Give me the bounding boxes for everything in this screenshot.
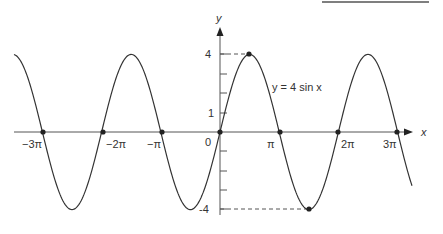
x-axis-label: x xyxy=(420,126,427,138)
x-tick-pi: π xyxy=(267,138,275,150)
sine-graph: y x 4 1 -4 0 −3π −2π −π π 2π 3π y = 4 si… xyxy=(0,0,443,234)
min-point xyxy=(306,206,311,211)
x-axis-arrow-icon xyxy=(404,129,413,136)
y-tick-4: 4 xyxy=(205,48,211,60)
y-axis-arrow-icon xyxy=(217,27,224,36)
y-tick-1: 1 xyxy=(208,107,214,119)
max-point xyxy=(246,51,251,56)
x-tick-neg2pi: −2π xyxy=(106,138,127,150)
y-axis-label: y xyxy=(215,12,223,24)
x-tick-neg3pi: −3π xyxy=(22,138,43,150)
x-tick-3pi: 3π xyxy=(383,138,397,150)
origin-label: 0 xyxy=(205,136,211,148)
x-tick-negpi: −π xyxy=(147,138,161,150)
x-tick-2pi: 2π xyxy=(341,138,355,150)
equation-label: y = 4 sin x xyxy=(272,81,322,93)
y-tick-neg4: -4 xyxy=(199,203,209,215)
